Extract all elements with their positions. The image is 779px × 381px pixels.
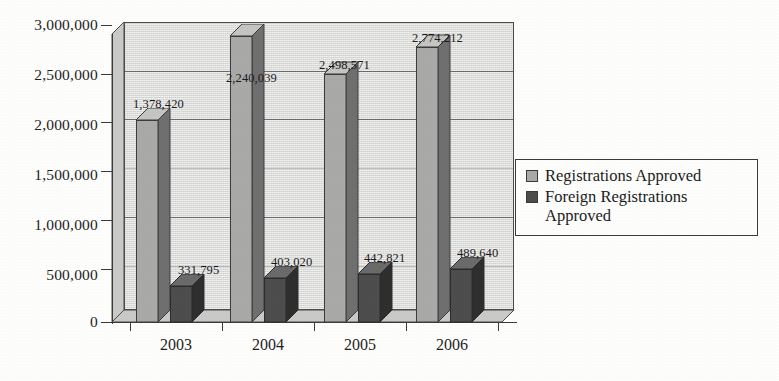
x-axis-label-2004: 2004 [228, 336, 308, 354]
data-label-foreign-2005: 442,821 [364, 251, 405, 266]
bar-foreign-2006 [450, 257, 492, 326]
data-label-foreign-2003: 331,795 [178, 263, 219, 278]
data-label-foreign-2004: 403,020 [271, 255, 312, 270]
data-label-registrations-2003: 1,378,420 [133, 97, 184, 112]
x-axis-label-2003: 2003 [136, 336, 216, 354]
legend-item-foreign-registrations-approved[interactable]: Foreign Registrations Approved [526, 187, 747, 225]
x-tick-mark-2 [314, 322, 315, 331]
legend-item-registrations-approved[interactable]: Registrations Approved [526, 166, 747, 185]
bar-foreign-2003 [170, 274, 212, 326]
x-axis-label-2005: 2005 [320, 336, 400, 354]
legend-swatch-icon-registrations [526, 170, 538, 182]
y-tick-label-3000000: 3,000,000 [34, 17, 98, 33]
x-tick-mark-4 [498, 322, 499, 331]
legend-label-registrations: Registrations Approved [545, 166, 701, 185]
y-tick-label-0: 0 [90, 314, 98, 330]
data-label-registrations-2004: 2,240,039 [226, 71, 277, 86]
y-axis-line [112, 34, 113, 324]
y-tick-label-1500000: 1,500,000 [34, 167, 98, 183]
x-axis-label-2006: 2006 [412, 336, 492, 354]
x-tick-mark-3 [406, 322, 407, 331]
y-tick-label-2500000: 2,500,000 [34, 67, 98, 83]
legend-swatch-icon-foreign [526, 191, 538, 203]
y-tick-label-500000: 500,000 [46, 267, 98, 283]
y-tick-label-1000000: 1,000,000 [34, 217, 98, 233]
y-tick-label-2000000: 2,000,000 [34, 117, 98, 133]
bar-chart: 3,000,000 2,500,000 2,000,000 1,500,000 … [0, 0, 779, 381]
bar-foreign-2005 [358, 262, 400, 326]
legend-label-foreign: Foreign Registrations Approved [545, 187, 745, 225]
data-label-registrations-2006: 2,774,212 [412, 31, 463, 46]
x-tick-mark-1 [222, 322, 223, 331]
x-tick-mark-0 [130, 322, 131, 331]
chart-legend: Registrations Approved Foreign Registrat… [515, 159, 758, 236]
data-label-foreign-2006: 489,640 [457, 246, 498, 261]
data-label-registrations-2005: 2,498,571 [319, 58, 370, 73]
bar-foreign-2004 [264, 266, 306, 326]
